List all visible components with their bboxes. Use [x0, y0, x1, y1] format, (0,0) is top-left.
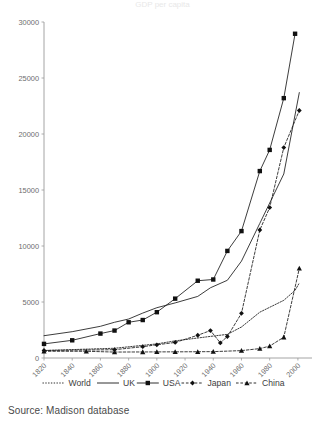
legend-label-world: World [69, 378, 92, 388]
legend-label-usa: USA [163, 378, 181, 388]
legend-item-japan[interactable]: Japan [182, 378, 232, 388]
chart-title-clipped: GDP per capita [0, 0, 325, 9]
data-point-marker [267, 344, 272, 349]
data-point-marker [141, 318, 145, 322]
legend-label-uk: UK [123, 378, 135, 388]
data-point-marker [154, 342, 159, 347]
data-point-marker [239, 311, 244, 316]
data-point-marker [42, 342, 46, 346]
x-tick-label: 1980 [256, 361, 274, 379]
legend-label-china: China [262, 378, 285, 388]
series-layer [41, 32, 302, 355]
data-point-marker [112, 328, 116, 332]
data-point-marker [239, 229, 243, 233]
legend-item-uk[interactable]: UK [97, 378, 135, 388]
data-point-marker [155, 310, 159, 314]
data-point-marker [211, 277, 215, 281]
chart-figure: GDP per capita 0500010000150002000025000… [0, 0, 325, 427]
data-point-marker [293, 32, 297, 36]
x-tick-label: 1940 [200, 361, 218, 379]
series-line-world [44, 283, 299, 351]
y-tick-label: 20000 [18, 130, 39, 139]
legend-item-world[interactable]: World [43, 378, 92, 388]
y-axis: 050001000015000200002500030000 [18, 18, 44, 363]
series-line-usa [44, 34, 295, 344]
data-point-marker [126, 320, 130, 324]
series-china [41, 266, 302, 354]
series-usa [42, 32, 297, 347]
y-tick-label: 0 [35, 354, 39, 363]
series-world [44, 283, 299, 351]
x-tick-label: 1880 [115, 361, 133, 379]
series-line-china [44, 268, 299, 352]
data-point-marker [258, 169, 262, 173]
data-point-marker [70, 338, 74, 342]
series-uk [44, 93, 299, 336]
x-tick-label: 1900 [143, 361, 161, 379]
data-point-marker [146, 381, 150, 385]
legend-item-china[interactable]: China [236, 378, 285, 388]
data-point-marker [267, 148, 271, 152]
gdp-per-capita-line-chart: 050001000015000200002500030000 182018401… [0, 0, 325, 400]
y-tick-label: 25000 [18, 74, 39, 83]
x-tick-label: 1820 [30, 361, 48, 379]
data-point-marker [173, 296, 177, 300]
y-tick-label: 15000 [18, 186, 39, 195]
data-point-marker [297, 108, 302, 113]
legend-label-japan: Japan [208, 378, 232, 388]
data-point-marker [257, 228, 262, 233]
chart-legend: WorldUKUSAJapanChina [43, 378, 285, 388]
y-tick-label: 30000 [18, 18, 39, 27]
y-tick-label: 5000 [23, 298, 39, 307]
legend-item-usa[interactable]: USA [137, 378, 181, 388]
source-note: Source: Madison database [8, 405, 129, 416]
data-point-marker [281, 335, 286, 340]
x-tick-label: 2000 [284, 361, 302, 379]
data-point-marker [195, 333, 200, 338]
data-point-marker [281, 145, 286, 150]
data-point-marker [196, 279, 200, 283]
x-axis: 1820184018601880190019201940196019802000 [30, 358, 312, 379]
x-tick-label: 1960 [228, 361, 246, 379]
data-point-marker [190, 381, 195, 386]
data-point-marker [282, 96, 286, 100]
y-tick-label: 10000 [18, 242, 39, 251]
data-point-marker [225, 249, 229, 253]
data-point-marker [297, 266, 302, 271]
series-line-uk [44, 93, 299, 336]
series-japan [42, 108, 302, 353]
data-point-marker [208, 328, 213, 333]
x-tick-label: 1920 [171, 361, 189, 379]
x-tick-label: 1840 [59, 361, 77, 379]
data-point-marker [98, 331, 102, 335]
x-tick-label: 1860 [87, 361, 105, 379]
